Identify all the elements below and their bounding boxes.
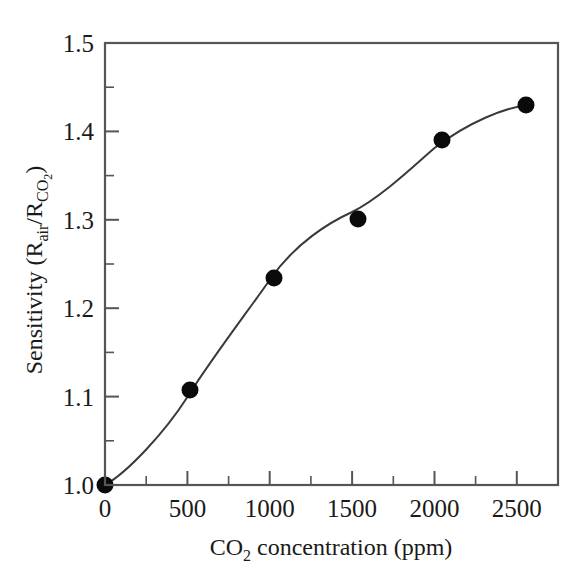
x-tick-label: 2000 — [410, 495, 460, 522]
y-tick-label: 1.3 — [63, 207, 94, 234]
co2-sensitivity-chart: 1.0 1.1 1.2 1.3 1.4 1.5 0 500 1000 1500 … — [0, 0, 584, 580]
y-axis-title-mid: /R — [21, 202, 47, 225]
x-axis-title-pre: CO — [210, 534, 243, 560]
data-point — [182, 382, 199, 399]
x-tick-label: 1000 — [245, 495, 295, 522]
x-tick-label: 2500 — [492, 495, 542, 522]
y-axis-title-subscript-air: air — [34, 224, 51, 242]
y-tick-label: 1.4 — [63, 118, 95, 145]
data-point — [518, 97, 535, 114]
x-tick-label: 0 — [99, 495, 112, 522]
y-tick-labels: 1.0 1.1 1.2 1.3 1.4 1.5 — [63, 30, 95, 499]
y-tick-label: 1.0 — [63, 472, 94, 499]
data-point — [350, 211, 367, 228]
figure-canvas: 1.0 1.1 1.2 1.3 1.4 1.5 0 500 1000 1500 … — [0, 0, 584, 580]
y-tick-label: 1.5 — [63, 30, 94, 57]
x-axis-title: CO2 concentration (ppm) — [210, 534, 453, 564]
data-point — [266, 270, 283, 287]
x-axis-title-post: concentration (ppm) — [251, 534, 452, 560]
y-axis-title-pre: Sensitivity (R — [21, 242, 47, 375]
y-axis-title: Sensitivity (Rair/RCO2) — [21, 166, 55, 374]
y-tick-label: 1.2 — [63, 295, 94, 322]
y-axis-title-post: ) — [21, 166, 47, 174]
x-axis-title-subscript: 2 — [243, 547, 251, 564]
x-tick-label: 1500 — [327, 495, 377, 522]
data-point — [434, 132, 451, 149]
x-tick-labels: 0 500 1000 1500 2000 2500 — [99, 495, 542, 522]
y-axis-title-subscript-co: CO — [34, 180, 51, 202]
y-tick-label: 1.1 — [63, 384, 94, 411]
x-tick-label: 500 — [169, 495, 207, 522]
